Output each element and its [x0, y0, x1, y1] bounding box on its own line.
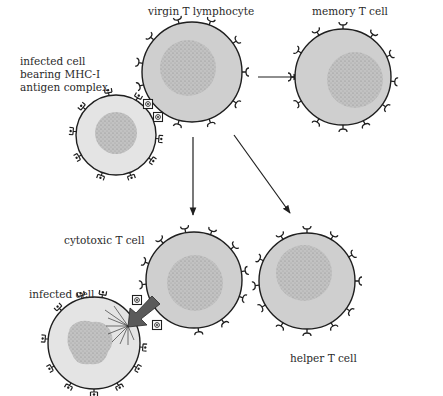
virgin-t-lymphocyte: [135, 16, 249, 128]
helper-t-cell: [252, 226, 362, 336]
label-helper-t-cell: helper T cell: [290, 352, 357, 365]
label-infected-cell-bottom: infected cell: [29, 288, 94, 301]
cytotoxic-t-cell: [139, 225, 249, 335]
arrow-to-helper: [234, 135, 290, 213]
infected-cell-mhc: [69, 88, 163, 180]
label-infected-cell-line1: infected cell: [20, 55, 85, 68]
label-cytotoxic-t-cell: cytotoxic T cell: [64, 234, 145, 247]
label-infected-cell-line3: antigen complex: [20, 81, 108, 94]
label-memory-t-cell: memory T cell: [312, 5, 388, 18]
label-virgin-t-lymphocyte: virgin T lymphocyte: [148, 5, 254, 18]
label-infected-cell-line2: bearing MHC-I: [20, 68, 100, 81]
memory-t-cell: [288, 22, 398, 132]
